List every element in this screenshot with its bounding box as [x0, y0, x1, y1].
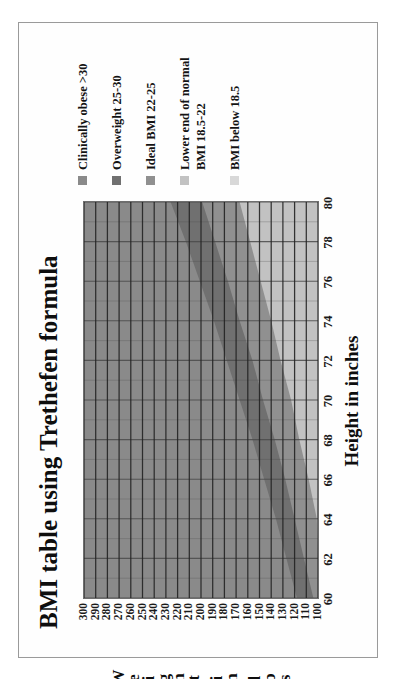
legend-swatch-icon: [112, 176, 121, 185]
x-tick-70: 70: [321, 395, 336, 408]
x-axis-title: Height in inches: [341, 203, 363, 599]
x-tick-80: 80: [321, 197, 336, 210]
y-tick-240: 240: [147, 603, 159, 620]
chart-legend: Clinically obese >30Overweight 25-30Idea…: [75, 35, 261, 185]
slide-content: BMI table using Trethefen formula 300290…: [21, 25, 375, 655]
legend-item-label: Lower end of normal BMI 18.5-22: [177, 35, 209, 170]
page-root: BMI table using Trethefen formula 300290…: [0, 0, 397, 679]
legend-item[interactable]: Ideal BMI 22-25: [143, 35, 159, 185]
x-tick-64: 64: [321, 514, 336, 527]
x-tick-60: 60: [321, 593, 336, 606]
y-axis-title-char-7: i: [208, 676, 223, 679]
legend-item[interactable]: Lower end of normal BMI 18.5-22: [177, 35, 209, 185]
y-axis-title-char-2: i: [140, 676, 155, 679]
x-tick-72: 72: [321, 355, 336, 368]
chart-title: BMI table using Trethefen formula: [35, 255, 63, 629]
y-tick-190: 190: [206, 603, 218, 620]
legend-item-label: Overweight 25-30: [109, 75, 125, 170]
x-tick-76: 76: [321, 276, 336, 289]
x-tick-78: 78: [321, 236, 336, 249]
y-tick-260: 260: [124, 603, 136, 620]
y-tick-100: 100: [311, 603, 323, 620]
y-axis-title-char-8: n: [223, 673, 238, 679]
legend-item[interactable]: Clinically obese >30: [75, 35, 91, 185]
y-tick-300: 300: [77, 603, 89, 620]
x-tick-62: 62: [321, 553, 336, 566]
y-axis-title: Weight in lbs: [83, 665, 317, 679]
legend-item-label: Ideal BMI 22-25: [143, 83, 159, 171]
plot-area: [83, 201, 319, 599]
y-tick-280: 280: [100, 603, 112, 620]
y-axis-title-char-11: b: [261, 673, 276, 679]
legend-item[interactable]: BMI below 18.5: [227, 35, 243, 185]
y-tick-110: 110: [299, 603, 311, 620]
legend-swatch-icon: [230, 176, 239, 185]
y-axis-title-char-4: h: [170, 673, 185, 679]
y-tick-230: 230: [159, 603, 171, 620]
y-axis-title-char-0: W: [110, 670, 125, 679]
x-tick-74: 74: [321, 316, 336, 329]
y-tick-220: 220: [171, 603, 183, 620]
y-axis-title-char-1: e: [125, 674, 140, 679]
legend-item-label: BMI below 18.5: [227, 86, 243, 170]
y-axis-title-char-10: l: [246, 676, 261, 679]
bmi-band-chart: [84, 202, 318, 598]
legend-item-label: Clinically obese >30: [75, 64, 91, 170]
slide-frame: BMI table using Trethefen formula 300290…: [18, 22, 378, 658]
y-axis-title-char-5: t: [185, 675, 200, 679]
y-tick-250: 250: [136, 603, 148, 620]
plot-wrapper: 3002902802702602502402302202102001901801…: [83, 203, 317, 599]
y-tick-130: 130: [276, 603, 288, 620]
y-tick-150: 150: [253, 603, 265, 620]
y-axis-title-char-3: g: [155, 674, 170, 679]
y-tick-200: 200: [194, 603, 206, 620]
y-tick-170: 170: [229, 603, 241, 620]
y-tick-120: 120: [288, 603, 300, 620]
x-tick-68: 68: [321, 434, 336, 447]
legend-swatch-icon: [146, 176, 155, 185]
legend-swatch-icon: [180, 176, 189, 185]
y-tick-270: 270: [112, 603, 124, 620]
legend-swatch-icon: [78, 176, 87, 185]
y-tick-140: 140: [264, 603, 276, 620]
y-axis-ticks: 3002902802702602502402302202102001901801…: [83, 601, 317, 651]
y-axis-title-char-12: s: [276, 675, 291, 679]
x-axis-ticks: 6062646668707274767880: [321, 203, 341, 599]
grid-major: [84, 202, 318, 598]
y-tick-210: 210: [182, 603, 194, 620]
y-tick-180: 180: [217, 603, 229, 620]
x-tick-66: 66: [321, 474, 336, 487]
y-tick-160: 160: [241, 603, 253, 620]
y-tick-290: 290: [89, 603, 101, 620]
legend-item[interactable]: Overweight 25-30: [109, 35, 125, 185]
